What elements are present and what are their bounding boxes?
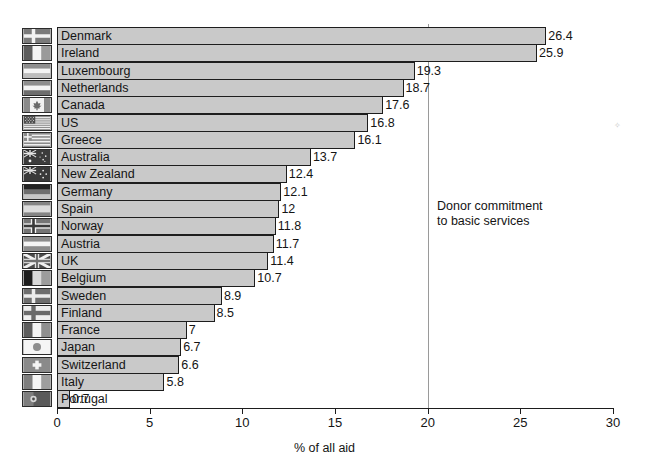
x-axis-tick-label: 25 bbox=[513, 415, 527, 430]
bar-row: Greece16.1 bbox=[0, 131, 649, 149]
bar-value-label: 26.4 bbox=[548, 28, 572, 44]
flag-uk-icon bbox=[22, 253, 52, 269]
bar-category-label: Luxembourg bbox=[61, 63, 131, 79]
bar-category-label: Denmark bbox=[61, 28, 112, 44]
flag-ireland-icon bbox=[22, 45, 52, 61]
bar-row: Germany12.1 bbox=[0, 183, 649, 201]
bar-value-label: 13.7 bbox=[313, 149, 337, 165]
x-axis-tick bbox=[242, 408, 243, 414]
bar bbox=[57, 114, 368, 132]
flag-netherlands-icon bbox=[22, 80, 52, 96]
bar-category-label: Canada bbox=[61, 97, 105, 113]
flag-spain-icon bbox=[22, 201, 52, 217]
flag-sweden-icon bbox=[22, 288, 52, 304]
bar-category-label: US bbox=[61, 115, 78, 131]
bar-value-label: 6.7 bbox=[183, 339, 200, 355]
x-axis-tick-label: 0 bbox=[53, 415, 60, 430]
x-axis-tick bbox=[335, 408, 336, 414]
flag-france-icon bbox=[22, 322, 52, 338]
bar-row: Portugal0.7 bbox=[0, 390, 649, 408]
x-axis-tick-label: 10 bbox=[235, 415, 249, 430]
bar-value-label: 7 bbox=[189, 322, 196, 338]
x-axis-tick-label: 20 bbox=[420, 415, 434, 430]
bar-category-label: Switzerland bbox=[61, 357, 126, 373]
bar-row: New Zealand12.4 bbox=[0, 165, 649, 183]
x-axis-tick bbox=[150, 408, 151, 414]
bar-row: Denmark26.4 bbox=[0, 27, 649, 45]
bar bbox=[57, 44, 537, 62]
x-axis-tick bbox=[613, 408, 614, 414]
x-axis-tick-label: 5 bbox=[146, 415, 153, 430]
flag-denmark-icon bbox=[22, 28, 52, 44]
bar-value-label: 19.3 bbox=[417, 63, 441, 79]
bar-value-label: 16.8 bbox=[370, 115, 394, 131]
bar-category-label: Italy bbox=[61, 374, 84, 390]
bar-value-label: 12.1 bbox=[283, 184, 307, 200]
bar-row: Italy5.8 bbox=[0, 373, 649, 391]
bar-row: Luxembourg19.3 bbox=[0, 62, 649, 80]
bar-value-label: 5.8 bbox=[166, 374, 183, 390]
bar-category-label: Ireland bbox=[61, 45, 99, 61]
bar-value-label: 11.8 bbox=[278, 218, 301, 234]
flag-japan-icon bbox=[22, 339, 52, 355]
x-axis-tick-label: 15 bbox=[328, 415, 342, 430]
bar-category-label: Norway bbox=[61, 218, 103, 234]
flag-canada-icon bbox=[22, 97, 52, 113]
bar-category-label: Spain bbox=[61, 201, 93, 217]
bar-category-label: Germany bbox=[61, 184, 112, 200]
bar-value-label: 10.7 bbox=[257, 270, 281, 286]
bar-value-label: 12.4 bbox=[289, 166, 313, 182]
flag-norway-icon bbox=[22, 218, 52, 234]
flag-italy-icon bbox=[22, 374, 52, 390]
bar-row: Sweden8.9 bbox=[0, 287, 649, 305]
bar-row: Australia13.7 bbox=[0, 148, 649, 166]
x-axis-tick-label: 30 bbox=[606, 415, 620, 430]
bar-value-label: 12 bbox=[281, 201, 295, 217]
bar-category-label: Austria bbox=[61, 236, 100, 252]
flag-luxembourg-icon bbox=[22, 63, 52, 79]
x-axis-tick bbox=[520, 408, 521, 414]
flag-australia-icon bbox=[22, 149, 52, 165]
bar-value-label: 11.7 bbox=[276, 236, 299, 252]
bar-row: Finland8.5 bbox=[0, 304, 649, 322]
bar-category-label: UK bbox=[61, 253, 78, 269]
flag-switzerland-icon bbox=[22, 357, 52, 373]
bar bbox=[57, 252, 268, 270]
bar-value-label: 25.9 bbox=[539, 45, 563, 61]
bar-value-label: 16.1 bbox=[357, 132, 381, 148]
bar-row: Norway11.8 bbox=[0, 217, 649, 235]
bar-row: UK11.4 bbox=[0, 252, 649, 270]
bar-value-label: 18.7 bbox=[406, 80, 430, 96]
bar-value-label: 17.6 bbox=[385, 97, 409, 113]
bar-category-label: Australia bbox=[61, 149, 110, 165]
flag-germany-icon bbox=[22, 184, 52, 200]
flag-us-icon bbox=[22, 115, 52, 131]
flag-new-zealand-icon bbox=[22, 166, 52, 182]
bar-category-label: France bbox=[61, 322, 100, 338]
flag-austria-icon bbox=[22, 236, 52, 252]
bar-category-label: Japan bbox=[61, 339, 95, 355]
flag-greece-icon bbox=[22, 132, 52, 148]
bar-value-label: 6.6 bbox=[181, 357, 198, 373]
bar-row: Japan6.7 bbox=[0, 338, 649, 356]
bar-value-label: 8.9 bbox=[224, 288, 241, 304]
bar-chart: Donor commitment to basic services 05101… bbox=[0, 0, 649, 474]
flag-portugal-icon bbox=[22, 391, 52, 407]
bar-row: Netherlands18.7 bbox=[0, 79, 649, 97]
bar-category-label: New Zealand bbox=[61, 166, 135, 182]
bar-category-label: Belgium bbox=[61, 270, 106, 286]
x-axis-tick bbox=[428, 408, 429, 414]
bar-row: Ireland25.9 bbox=[0, 44, 649, 62]
bar-category-label: Greece bbox=[61, 132, 102, 148]
x-axis-tick bbox=[57, 408, 58, 414]
bar-row: Canada17.6 bbox=[0, 96, 649, 114]
bar-category-label: Netherlands bbox=[61, 80, 128, 96]
bar-value-label: 11.4 bbox=[270, 253, 293, 269]
flag-belgium-icon bbox=[22, 270, 52, 286]
bar-row: US16.8 bbox=[0, 114, 649, 132]
bar-row: Belgium10.7 bbox=[0, 269, 649, 287]
bar-value-label: 8.5 bbox=[217, 305, 234, 321]
flag-finland-icon bbox=[22, 305, 52, 321]
bar-row: Switzerland6.6 bbox=[0, 356, 649, 374]
bar-category-label: Sweden bbox=[61, 288, 106, 304]
